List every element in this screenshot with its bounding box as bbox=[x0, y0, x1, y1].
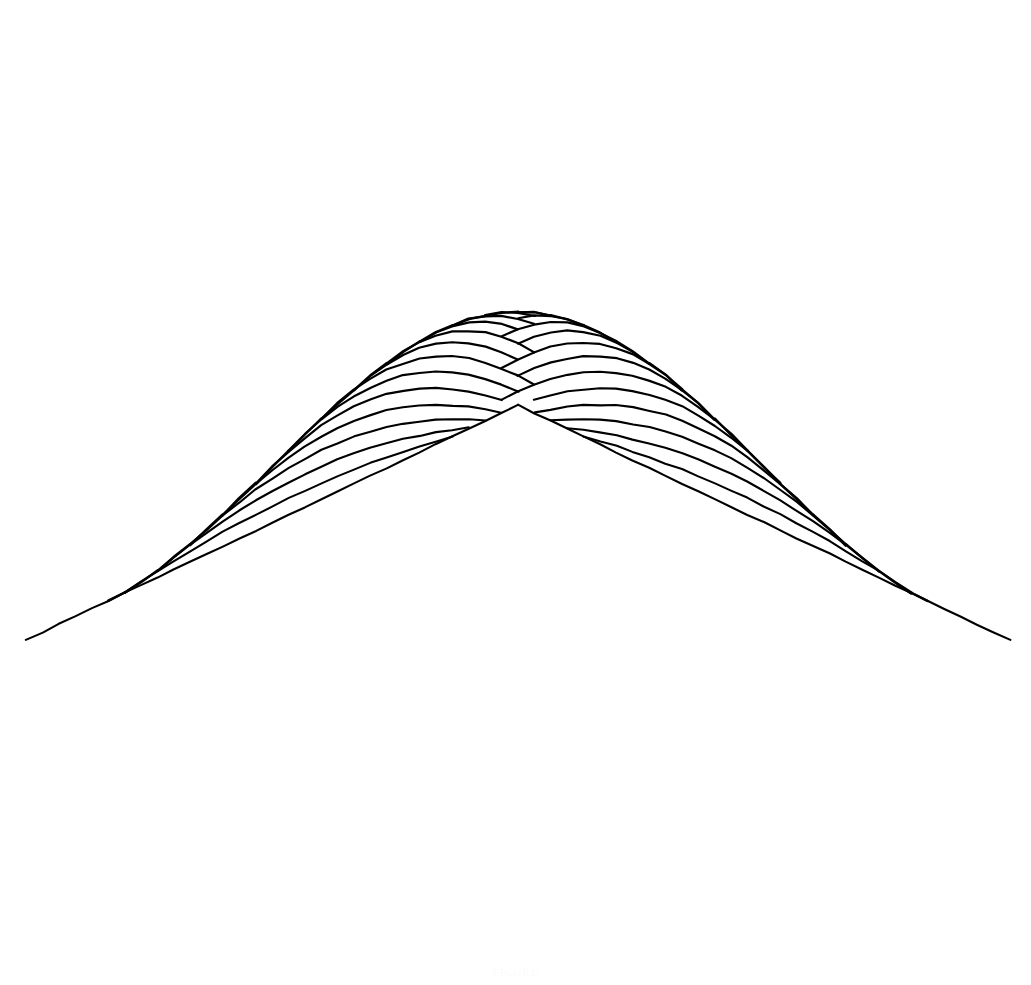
wireframe-surface-figure: FIGURE bbox=[0, 0, 1031, 985]
plot-background bbox=[0, 0, 1031, 985]
wireframe-surface-plot bbox=[0, 0, 1031, 985]
figure-caption: FIGURE bbox=[0, 966, 1031, 978]
